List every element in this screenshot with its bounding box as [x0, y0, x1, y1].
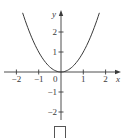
- origin-label: 0: [53, 74, 58, 84]
- y-tick-label: −2: [47, 107, 57, 117]
- y-axis-arrow-icon: [59, 10, 63, 16]
- x-tick-label: −2: [12, 74, 22, 84]
- y-tick-label: 2: [53, 27, 58, 37]
- answer-box[interactable]: [54, 126, 66, 138]
- y-axis-label: y: [51, 9, 56, 19]
- x-axis-label: x: [115, 74, 120, 84]
- y-tick-label: 1: [53, 47, 58, 57]
- y-axis: [59, 10, 63, 120]
- y-tick-label: −1: [47, 87, 57, 97]
- x-tick-label: −1: [34, 74, 44, 84]
- x-tick-label: 2: [103, 74, 108, 84]
- x-tick-label: 1: [81, 74, 86, 84]
- parabola-plot: −2−112 −2−112 x y 0: [0, 0, 126, 138]
